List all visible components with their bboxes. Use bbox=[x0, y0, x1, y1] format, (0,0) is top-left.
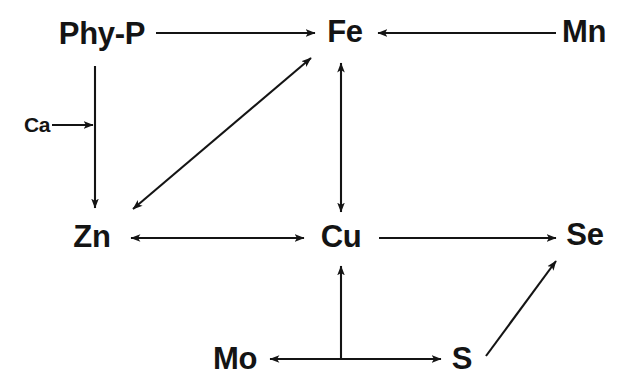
node-mo[interactable]: Mo bbox=[213, 343, 257, 374]
node-fe[interactable]: Fe bbox=[327, 16, 363, 47]
node-mn[interactable]: Mn bbox=[562, 16, 606, 47]
node-cu[interactable]: Cu bbox=[321, 221, 362, 252]
edge-zn-fe bbox=[133, 58, 311, 209]
diagram-canvas: Phy-P Fe Mn Ca Zn Cu Se Mo S bbox=[0, 0, 624, 390]
node-ca[interactable]: Ca bbox=[24, 114, 50, 135]
node-zn[interactable]: Zn bbox=[73, 221, 110, 252]
node-s[interactable]: S bbox=[452, 343, 472, 374]
edge-layer bbox=[0, 0, 624, 390]
node-se[interactable]: Se bbox=[566, 219, 603, 250]
node-phy-p[interactable]: Phy-P bbox=[59, 18, 145, 49]
edge-s-to-se bbox=[486, 261, 556, 356]
